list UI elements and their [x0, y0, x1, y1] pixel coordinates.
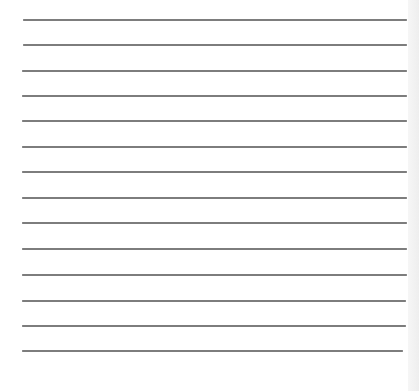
ruled-line — [22, 350, 403, 352]
ruled-line — [23, 44, 407, 46]
ruled-line — [22, 222, 407, 224]
lined-paper-sheet — [0, 0, 419, 391]
ruled-line — [22, 70, 407, 72]
page-edge-shadow — [408, 0, 419, 391]
ruled-line — [22, 120, 407, 122]
ruled-line — [22, 95, 407, 97]
ruled-line — [22, 325, 406, 327]
ruled-line — [22, 274, 407, 276]
ruled-line — [23, 19, 407, 21]
ruled-line — [22, 248, 407, 250]
ruled-line — [22, 171, 407, 173]
ruled-line — [22, 300, 406, 302]
ruled-line — [22, 197, 407, 199]
ruled-line — [22, 146, 407, 148]
